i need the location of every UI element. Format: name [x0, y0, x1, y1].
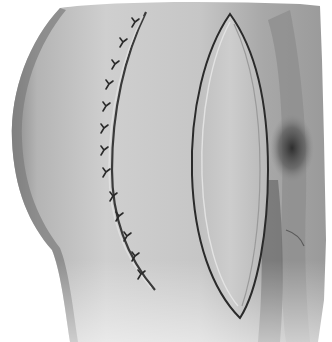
bottom-fade: [0, 260, 332, 342]
dark-shadow-spot: [270, 114, 314, 182]
surgical-illustration: [0, 0, 332, 342]
